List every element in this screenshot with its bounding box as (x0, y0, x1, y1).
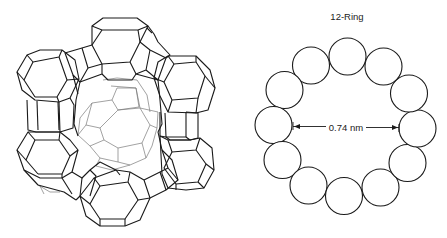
ring-atom (389, 145, 426, 182)
framework-edges (17, 18, 215, 226)
ring-atom (290, 167, 327, 204)
ring-atom (399, 110, 436, 147)
framework-structure (17, 18, 215, 226)
arrowhead-right-icon (392, 125, 398, 130)
ring-atom (326, 178, 363, 215)
pore-diameter-label: 0.74 nm (329, 122, 363, 133)
ring-title: 12-Ring (330, 11, 363, 22)
diagram-canvas: 12-Ring 0.74 nm (0, 0, 447, 238)
ring-atom (255, 107, 292, 144)
ring-atom (329, 38, 366, 75)
arrowhead-left-icon (294, 124, 300, 129)
pore-diameter-dimension: 0.74 nm (293, 122, 399, 133)
ring-atom (266, 72, 303, 109)
ring-atom (365, 48, 402, 85)
